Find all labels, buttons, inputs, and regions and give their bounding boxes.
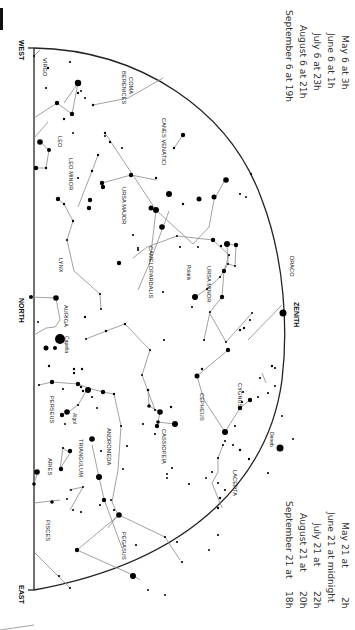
label-cepheus: CEPHEUS (199, 393, 205, 421)
label-pegasus: PEGASUS (121, 532, 127, 560)
time-bottom-date-3: August 21 at (298, 513, 309, 572)
time-top-1: June 6 at 1h (326, 32, 337, 89)
time-bottom-time-0: 2h (340, 597, 351, 609)
time-bottom-time-2: 22h (312, 591, 323, 609)
label-camelopardalis: CAMELOPARDALIS (148, 246, 154, 298)
time-bottom-date-1: June 21 at midnight (326, 511, 337, 603)
label-canes-venatici: CANES VENATICI (161, 118, 167, 166)
constellation-lines (0, 50, 282, 630)
time-top-3: August 6 at 21h (298, 25, 309, 99)
times-bottom: May 21 at 2h June 21 at midnight July 21… (284, 501, 351, 609)
east-label: EAST (18, 585, 25, 604)
label-coma-2: BERENICES (121, 71, 127, 104)
time-bottom-date-0: May 21 at (340, 522, 351, 568)
north-label: NORTH (18, 298, 25, 323)
label-auriga: AURIGA (63, 305, 69, 327)
label-cygnus: CYGNUS (237, 383, 243, 408)
star-chart: WEST NORTH EAST ZENITH May 6 at 3h June … (0, 0, 355, 630)
time-bottom-date-2: July 21 at (312, 522, 323, 567)
label-leo-minor: LEO MINOR (68, 158, 74, 190)
label-lynx: LYNX (58, 258, 64, 273)
constellation-labels: VIRGO COMA BERENICES LEO LEO MINOR CANES… (42, 58, 295, 560)
label-deneb: Deneb (269, 432, 275, 447)
time-bottom-time-4: 18h (284, 591, 295, 609)
label-aries: ARIES (47, 458, 53, 475)
label-algol: Algol (72, 413, 78, 424)
label-pisces: PISCES (45, 520, 51, 541)
label-leo: LEO (57, 136, 63, 148)
times-top: May 6 at 3h June 6 at 1h July 6 at 23h A… (284, 10, 351, 102)
label-ursa-major: URSA MAJOR (121, 187, 127, 224)
zenith-label: ZENITH (293, 302, 300, 327)
time-top-0: May 6 at 3h (340, 35, 351, 90)
time-bottom-date-4: September 21 at (284, 501, 295, 579)
label-capella: Capella (64, 336, 70, 353)
label-ursa-minor: URSA MINOR (206, 266, 212, 302)
direction-labels: WEST NORTH EAST ZENITH (18, 40, 300, 604)
label-coma-1: COMA (128, 77, 134, 94)
time-top-2: July 6 at 23h (312, 32, 323, 91)
label-perseus: PERSEUS (49, 396, 55, 424)
label-polaris: Polaris (186, 265, 192, 281)
label-virgo: VIRGO (42, 58, 48, 77)
label-cassiopeia: CASSIOPEIA (161, 429, 167, 464)
time-top-4: September 6 at 19h (284, 10, 295, 102)
label-lacerta: LACERTA (232, 470, 238, 496)
label-andromeda: ANDROMEDA (106, 428, 112, 465)
label-draco: DRACO (289, 256, 295, 277)
time-bottom-time-3: 20h (298, 591, 309, 609)
west-label: WEST (18, 40, 25, 61)
label-triangulum: TRIANGULUM (78, 439, 84, 477)
